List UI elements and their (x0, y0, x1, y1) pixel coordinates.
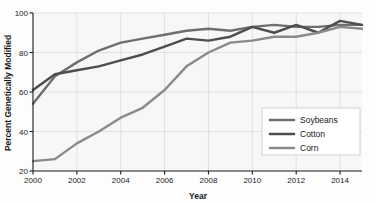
y-axis-label: Percent Genetically Modified (3, 35, 13, 151)
x-tick-label: 2010 (243, 176, 261, 185)
x-tick-label: 2012 (287, 176, 305, 185)
chart-legend[interactable]: SoybeansCottonCorn (262, 108, 360, 155)
legend-label-cotton: Cotton (300, 129, 325, 139)
y-tick-label: 20 (19, 167, 28, 176)
legend-label-corn: Corn (300, 143, 319, 153)
x-tick-label: 2000 (24, 176, 42, 185)
x-tick-label: 2008 (200, 176, 218, 185)
x-tick-label: 2014 (331, 176, 349, 185)
x-axis-label: Year (189, 191, 208, 201)
y-tick-label: 40 (19, 128, 28, 137)
line-chart: 2040608010020002002200420062008201020122… (0, 0, 375, 203)
y-tick-label: 60 (19, 88, 28, 97)
x-tick-label: 2004 (112, 176, 130, 185)
y-tick-label: 80 (19, 49, 28, 58)
y-tick-label: 100 (15, 9, 29, 18)
chart-figure: 2040608010020002002200420062008201020122… (0, 0, 375, 203)
x-tick-label: 2002 (68, 176, 86, 185)
x-tick-label: 2006 (156, 176, 174, 185)
legend-label-soybeans: Soybeans (300, 115, 338, 125)
